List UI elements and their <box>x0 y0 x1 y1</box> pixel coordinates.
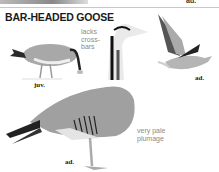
juvenile-label: juv. <box>34 81 45 89</box>
juvenile-goose-illustration <box>10 44 83 79</box>
flying-goose-illustration <box>158 14 212 69</box>
goose-illustrations <box>0 0 219 172</box>
standing-goose-illustration <box>6 24 148 170</box>
flying-adult-label: ad. <box>195 74 204 82</box>
standing-adult-label: ad. <box>65 158 74 166</box>
